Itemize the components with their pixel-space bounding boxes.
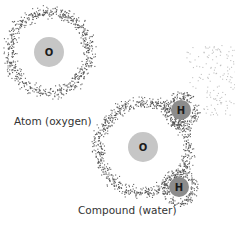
hydrogen-2-symbol: H [175,182,183,193]
hydrogen-1-symbol: H [177,105,185,116]
water-oxygen-symbol: O [139,142,148,153]
compound-label: Compound (water) [78,204,177,216]
hydrogen-nucleus-1: H [171,100,191,120]
hydrogen-nucleus-2: H [169,177,189,197]
atom-compound-diagram: O O H H [0,0,235,226]
oxygen-symbol: O [45,47,54,58]
atom-label: Atom (oxygen) [14,115,92,127]
electron-dots [3,5,235,207]
oxygen-atom-nucleus: O [34,37,64,67]
water-oxygen-nucleus: O [128,132,158,162]
